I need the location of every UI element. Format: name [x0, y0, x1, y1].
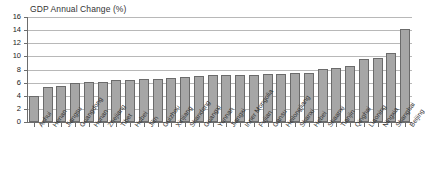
- y-tick-label: 0: [17, 118, 21, 125]
- y-tick-label: 8: [17, 66, 21, 73]
- chart-title: GDP Annual Change (%): [30, 4, 126, 14]
- y-tick-label: 16: [13, 13, 21, 20]
- y-tick-label: 10: [13, 52, 21, 59]
- bar: [29, 96, 39, 122]
- y-tick-label: 12: [13, 39, 21, 46]
- y-tick-label: 6: [17, 79, 21, 86]
- y-tick-label: 14: [13, 26, 21, 33]
- y-tick-mark: [24, 122, 27, 123]
- x-axis-labels: AnhuiHenanJiangsuGuangdongHunanZhejiangT…: [27, 124, 416, 183]
- y-tick-label: 4: [17, 92, 21, 99]
- y-tick-label: 2: [17, 105, 21, 112]
